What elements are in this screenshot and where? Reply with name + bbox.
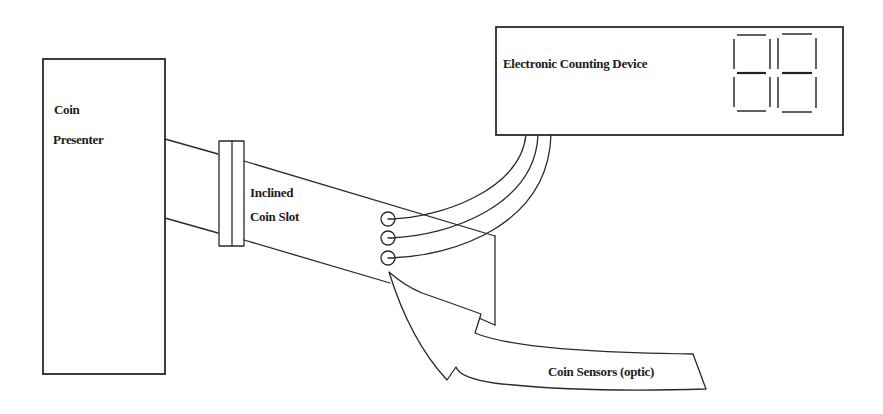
- seven-segment-display: [734, 34, 816, 112]
- coin-sensors: [381, 212, 395, 265]
- digit-1: [734, 35, 770, 111]
- inclined-coin-slot: [165, 139, 495, 325]
- coin-counter-diagram: [0, 0, 883, 414]
- inclined-slot-label-line2: Coin Slot: [250, 210, 299, 223]
- coin-sensors-label: Coin Sensors (optic): [548, 365, 654, 378]
- sensor-wires: [390, 135, 551, 258]
- counting-device-box: [496, 27, 843, 135]
- inclined-slot-label-line1: Inclined: [250, 186, 293, 199]
- coin-presenter-label-line2: Presenter: [53, 133, 103, 146]
- counting-device-label: Electronic Counting Device: [503, 57, 647, 70]
- coin-presenter-label-line1: Coin: [54, 103, 80, 116]
- slot-flange: [219, 141, 244, 246]
- digit-2: [778, 34, 816, 112]
